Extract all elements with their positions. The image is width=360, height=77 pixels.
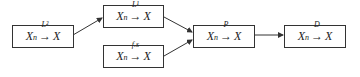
convergence-arrow-icon: D→: [311, 29, 323, 44]
convergence-arrow-icon: f.s→: [130, 49, 142, 64]
node-distribution-convergence: XnD→X: [284, 25, 346, 48]
convergence-arrow-icon: L¹→: [130, 9, 142, 24]
edge-l2-to-l1: [73, 18, 102, 35]
node-l2-convergence: XnL²→X: [12, 25, 74, 48]
convergence-arrow-icon: P→: [220, 29, 232, 44]
edge-as-to-p: [164, 40, 192, 56]
convergence-arrow-icon: L²→: [39, 29, 51, 44]
node-almost-sure-convergence: Xnf.s→X: [103, 45, 164, 68]
node-probability-convergence: XnP→X: [193, 25, 255, 48]
edge-l1-to-p: [164, 17, 192, 32]
node-l1-convergence: XnL¹→X: [103, 5, 164, 28]
